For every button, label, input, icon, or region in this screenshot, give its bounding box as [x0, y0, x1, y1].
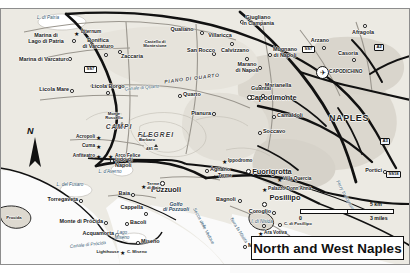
town-marker — [205, 169, 209, 173]
town-label-calvizzano: Calvizzano — [221, 48, 249, 54]
region-label-campi: CAMPI — [106, 124, 133, 131]
site-marker-arco-felice: ★ — [108, 154, 113, 160]
road-shield-a2[interactable]: A2 — [374, 44, 384, 51]
site-label-liternum: Liternum — [81, 30, 101, 35]
scale-label-km: 5 km — [370, 201, 382, 207]
site-marker-anfiteatro: ★ — [96, 154, 101, 160]
town-marker — [212, 112, 216, 116]
town-label-mugnano: Mugnanodi Napoli — [273, 47, 297, 58]
site-marker-cuma: ★ — [96, 144, 101, 150]
town-marker — [230, 42, 234, 46]
site-label-villa-quercia: Villa Quercia — [283, 177, 311, 182]
town-label-fuorigrotta: Fuorigrotta — [252, 168, 291, 176]
town-marker — [261, 94, 265, 98]
region-label-flegrei: FLEGREI — [138, 132, 174, 139]
town-label-monte-di-procida: Monte di Prócida — [60, 219, 103, 225]
town-marker — [104, 53, 108, 57]
town-label-quarto: Quarto — [183, 92, 201, 98]
town-label-zaccaria: Zaccaria — [121, 54, 143, 60]
city-label-naples: NAPLES — [329, 114, 369, 123]
town-marker — [200, 31, 204, 35]
town-marker — [322, 46, 326, 50]
town-label-agnano: Agnano — [210, 167, 230, 173]
town-label-capodimonte: Capodimonte — [249, 94, 296, 102]
water-label-averno: L. d'Averno — [98, 170, 121, 175]
town-label-san-rocco: San Rocco — [187, 48, 215, 54]
map-title: North and West Naples — [253, 241, 401, 256]
road-shield-ss7-east[interactable]: SS7 — [302, 46, 315, 53]
scale-bar-track — [300, 209, 394, 214]
town-label-marina-varcaturo: Marina di Varcaturo — [19, 57, 69, 63]
town-label-posillipo: Posillipo — [270, 194, 301, 202]
peak-elev-monte-barbaro: 481 m — [146, 147, 158, 151]
town-label-castello-montesione: Castello diMontesione — [143, 40, 166, 49]
town-label-bacoli: Bacoli — [130, 220, 146, 226]
site-marker-acropoli: ★ — [96, 135, 101, 141]
town-marker — [144, 212, 148, 216]
site-label-anfiteatro: Anfiteatro — [73, 154, 95, 159]
town-marker-capodimonte — [247, 95, 252, 100]
site-marker-terme-di-baia: ★ — [141, 184, 146, 190]
site-label-acropoli: Acropoli — [76, 135, 95, 140]
scale-bar: 0 5 km 3 miles — [300, 203, 400, 227]
scale-label-zero: 0 — [299, 215, 302, 221]
town-marker — [131, 193, 135, 197]
town-label-coroglio: Coroglio — [249, 209, 271, 215]
water-label-lago-patria: L. di Patria — [37, 16, 59, 21]
town-label-miseno: Miseno — [141, 239, 160, 245]
town-label-marano: Maranodi Napoli — [236, 62, 259, 73]
site-marker-terme: ★ — [212, 174, 217, 180]
water-label-golfo-pozzuoli: Golfodi Pozzuoli — [163, 202, 189, 212]
island-label-procida: Procida — [6, 216, 21, 220]
site-marker-lighthouse: ★ — [120, 250, 125, 256]
town-marker — [352, 58, 356, 62]
road-shield-ss7[interactable]: SS7 — [84, 66, 97, 73]
town-label-licola-borgo: Licola Borgo — [92, 84, 125, 90]
scale-label-miles: 3 miles — [370, 215, 388, 221]
town-label-guantai: Guantai — [251, 86, 271, 92]
road-shield-ss18[interactable]: SS18 — [386, 171, 401, 178]
town-marker — [104, 221, 108, 225]
town-marker — [79, 199, 83, 203]
town-marker — [258, 131, 262, 135]
north-arrow-label: N — [27, 126, 34, 136]
town-label-bonifica-varcaturo: Bonificadi Varcaturo — [82, 38, 113, 49]
town-label-soccavo: Soccavo — [263, 129, 285, 135]
water-label-lago-miseno: LagoMiseno — [115, 231, 130, 240]
town-marker-posillipo — [262, 202, 267, 207]
town-marker — [363, 24, 367, 28]
map-canvas[interactable]: NAPLES Capodimonte Fuorigrotta Posillipo… — [0, 0, 410, 273]
town-marker — [272, 115, 276, 119]
town-label-afragola: Afragola — [352, 30, 374, 36]
site-label-c-miseno: C. Miseno — [127, 250, 147, 254]
water-label-fusaro: L. del Fusaro — [57, 183, 84, 188]
site-label-terme-di-baia: Termedi Baia — [147, 182, 161, 191]
town-label-villaricca: Villaricca — [208, 33, 232, 39]
site-label-ippodromo: Ippodromo — [228, 159, 252, 164]
peak-label-monte-ruscello: MonteRuscello — [105, 112, 122, 121]
site-label-terme: Terme — [218, 174, 232, 179]
town-marker-fuorigrotta — [246, 169, 251, 174]
site-label-cuma: Cuma — [82, 144, 95, 149]
road-shield-a3[interactable]: A3 — [380, 138, 390, 145]
town-marker — [243, 245, 247, 249]
town-label-qualiano: Qualiano — [170, 27, 193, 33]
town-marker — [125, 222, 129, 226]
town-label-portici: Portici — [365, 168, 382, 174]
town-label-baia: Baia — [119, 191, 130, 197]
town-label-giugliano: Giuglianoin Campania — [242, 15, 274, 26]
town-marker — [72, 39, 76, 43]
town-marker — [238, 199, 242, 203]
town-label-camaldoli: Camaldoli — [277, 113, 303, 119]
site-label-lighthouse: Lighthouse — [96, 250, 119, 254]
town-marker — [136, 241, 140, 245]
town-label-bagnoli: Bagnoli — [216, 197, 236, 203]
site-label-palazzo-donnanna: Palazzo Donn'Anna — [268, 187, 311, 192]
site-marker-liternum: ★ — [74, 31, 79, 37]
town-label-licola-mare: Licola Mare — [39, 87, 69, 93]
town-marker — [268, 53, 272, 57]
site-marker-ippodromo: ★ — [222, 159, 227, 165]
town-marker — [178, 94, 182, 98]
town-marker — [272, 211, 276, 215]
airplane-icon: ✈ — [316, 66, 329, 79]
